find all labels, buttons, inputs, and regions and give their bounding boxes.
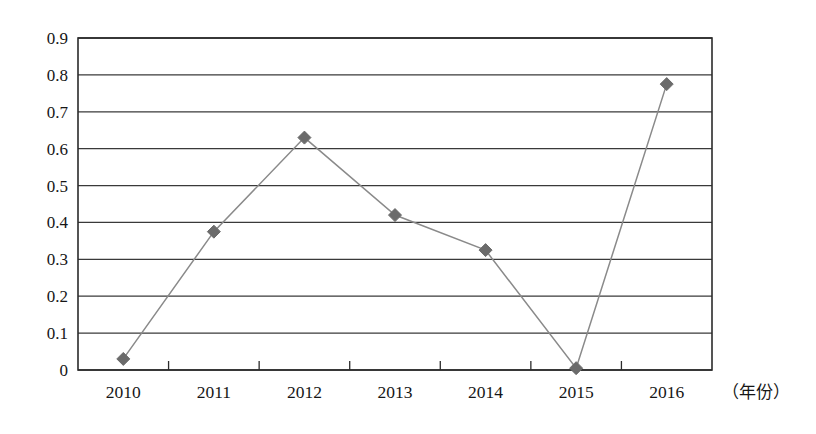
y-axis-tick-label: 0.1 — [47, 324, 68, 343]
x-axis-title: （年份） — [722, 383, 790, 402]
data-line-series — [123, 84, 666, 368]
data-point-marker — [479, 244, 492, 257]
x-axis-tick-label: 2013 — [378, 382, 413, 402]
x-axis-tick-label: 2014 — [468, 382, 503, 402]
y-axis-tick-label: 0.3 — [47, 250, 68, 269]
y-axis-tick-label: 0.9 — [47, 29, 68, 48]
y-axis-tick-label: 0.4 — [47, 213, 69, 232]
data-point-marker — [660, 78, 673, 91]
chart-container: 0.90.80.70.60.50.40.30.20.10 20102011201… — [0, 0, 816, 434]
y-axis-tick-label: 0.7 — [47, 103, 69, 122]
x-axis-tick-label: 2011 — [197, 382, 231, 402]
data-point-markers — [117, 78, 673, 375]
x-axis-tick-label: 2015 — [559, 382, 594, 402]
x-axis-tick-label: 2016 — [649, 382, 684, 402]
plot-frame — [78, 38, 712, 370]
y-axis-tick-labels: 0.90.80.70.60.50.40.30.20.10 — [47, 29, 69, 380]
x-axis-tick-label: 2010 — [106, 382, 141, 402]
y-axis-tick-label: 0.8 — [47, 66, 68, 85]
data-point-marker — [117, 352, 130, 365]
data-point-marker — [570, 362, 583, 375]
line-chart: 0.90.80.70.60.50.40.30.20.10 20102011201… — [0, 0, 816, 434]
x-axis-tick-label: 2012 — [287, 382, 322, 402]
y-axis-tick-label: 0 — [60, 361, 69, 380]
x-axis-tick-labels: 2010201120122013201420152016 — [106, 382, 685, 402]
y-axis-tick-label: 0.6 — [47, 140, 68, 159]
gridlines — [78, 38, 712, 370]
x-axis-ticks — [169, 361, 622, 370]
y-axis-tick-label: 0.2 — [47, 287, 68, 306]
y-axis-tick-label: 0.5 — [47, 177, 68, 196]
